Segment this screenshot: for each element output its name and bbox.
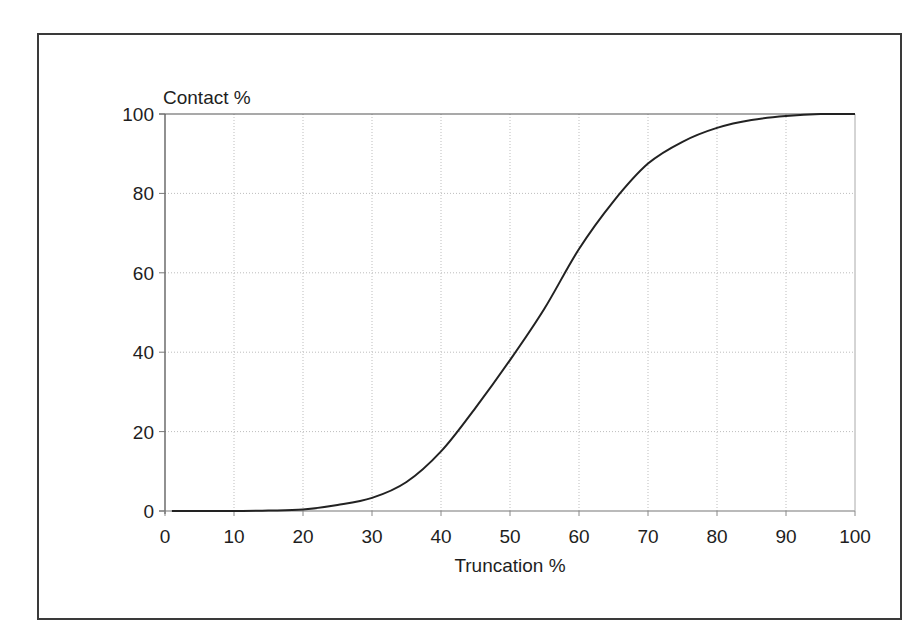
contact-curve [172,114,855,511]
y-tick-label: 20 [133,422,154,443]
line-chart: 0204060801000102030405060708090100 Conta… [0,0,924,642]
x-tick-label: 0 [160,526,171,547]
x-tick-label: 20 [292,526,313,547]
x-axis-title: Truncation % [454,555,565,576]
x-tick-label: 50 [499,526,520,547]
tick-labels: 0204060801000102030405060708090100 [122,104,871,547]
x-tick-label: 40 [430,526,451,547]
x-tick-label: 10 [223,526,244,547]
x-tick-label: 70 [637,526,658,547]
x-tick-label: 60 [568,526,589,547]
y-tick-label: 60 [133,263,154,284]
y-tick-label: 0 [143,501,154,522]
x-tick-label: 30 [361,526,382,547]
y-tick-label: 100 [122,104,154,125]
y-tick-label: 80 [133,183,154,204]
x-tick-label: 90 [775,526,796,547]
x-tick-label: 80 [706,526,727,547]
y-axis-title: Contact % [163,87,251,108]
gridlines [165,114,855,511]
y-tick-label: 40 [133,342,154,363]
axes [159,114,855,516]
x-tick-label: 100 [839,526,871,547]
